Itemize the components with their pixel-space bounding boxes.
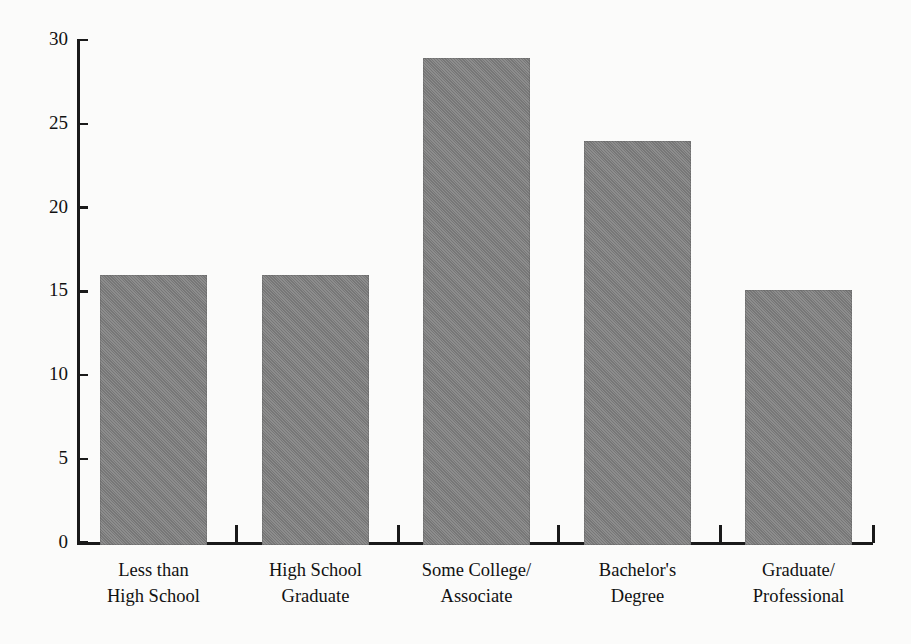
x-axis-category-label: High School Graduate [226,558,406,609]
x-axis-tick [872,525,875,543]
y-axis-tick-label: 25 [32,113,68,132]
y-axis-tick [77,541,88,544]
x-axis-category-label: Bachelor's Degree [548,558,728,609]
bar-chart: 051015202530 Less than High SchoolHigh S… [0,0,911,644]
y-axis-tick [77,458,88,461]
bar [745,290,852,545]
x-axis-category-label: Less than High School [64,558,244,609]
y-axis-tick-label-wrap: 10 [22,364,68,384]
y-axis-tick-label-wrap: 0 [22,532,68,552]
y-axis-tick-label: 0 [32,532,68,551]
x-axis-tick [397,525,400,543]
y-axis-tick [77,374,88,377]
y-axis-line [77,40,80,545]
y-axis-tick-label-wrap: 15 [22,280,68,300]
y-axis-tick [77,123,88,126]
x-axis-tick [235,525,238,543]
bar [584,141,691,545]
x-axis-category-label: Some College/ Associate [387,558,567,609]
bar [262,275,369,545]
plot-area: 051015202530 Less than High SchoolHigh S… [0,0,911,644]
y-axis-tick-label: 5 [32,448,68,467]
bar [423,58,530,545]
y-axis-tick-label-wrap: 20 [22,197,68,217]
x-axis-tick [557,525,560,543]
y-axis-tick [77,290,88,293]
y-axis-tick-label: 10 [32,364,68,383]
y-axis-tick-label-wrap: 30 [22,29,68,49]
x-axis-category-label: Graduate/ Professional [709,558,889,609]
x-axis-tick [719,525,722,543]
y-axis-tick [77,39,88,42]
y-axis-tick-label-wrap: 5 [22,448,68,468]
y-axis-tick-label: 30 [32,29,68,48]
y-axis-tick [77,206,88,209]
y-axis-tick-label: 15 [32,280,68,299]
y-axis-tick-label: 20 [32,197,68,216]
y-axis-tick-label-wrap: 25 [22,113,68,133]
bar [100,275,207,545]
